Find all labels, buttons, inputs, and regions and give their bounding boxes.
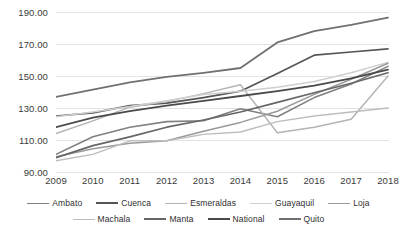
plot-area bbox=[56, 12, 389, 172]
legend-line-swatch bbox=[27, 203, 49, 204]
legend-item-quito[interactable]: Quito bbox=[279, 214, 325, 224]
x-axis-tick-label: 2016 bbox=[303, 175, 325, 186]
x-axis: 2009201020112012201320142015201620172018 bbox=[56, 175, 389, 191]
x-axis-tick-label: 2011 bbox=[119, 175, 140, 186]
legend-item-loja[interactable]: Loja bbox=[328, 198, 369, 208]
legend-label: National bbox=[233, 214, 265, 224]
legend-item-ambato[interactable]: Ambato bbox=[27, 198, 82, 208]
y-axis: 90.00110.00130.00150.00170.00190.00 bbox=[0, 12, 52, 172]
legend-label: Cuenca bbox=[121, 198, 151, 208]
gridline bbox=[56, 172, 389, 173]
x-axis-tick-label: 2012 bbox=[156, 175, 178, 186]
legend-item-national[interactable]: National bbox=[208, 214, 265, 224]
legend-item-guayaquil[interactable]: Guayaquil bbox=[250, 198, 314, 208]
y-axis-tick-label: 190.00 bbox=[18, 7, 48, 18]
legend-row: AmbatoCuencaEsmeraldasGuayaquilLoja bbox=[0, 195, 397, 211]
y-axis-tick-label: 170.00 bbox=[18, 39, 48, 50]
legend-item-manta[interactable]: Manta bbox=[144, 214, 193, 224]
legend-line-swatch bbox=[144, 218, 166, 220]
x-axis-tick-label: 2010 bbox=[82, 175, 104, 186]
legend-line-swatch bbox=[328, 203, 350, 204]
series-line-national bbox=[56, 70, 388, 128]
x-axis-tick-label: 2009 bbox=[45, 175, 67, 186]
legend-label: Quito bbox=[304, 214, 325, 224]
legend-item-machala[interactable]: Machala bbox=[73, 214, 131, 224]
legend-label: Esmeraldas bbox=[190, 198, 236, 208]
legend-item-cuenca[interactable]: Cuenca bbox=[96, 198, 151, 208]
legend-line-swatch bbox=[208, 218, 230, 220]
legend-line-swatch bbox=[73, 219, 95, 220]
y-axis-tick-label: 150.00 bbox=[18, 71, 48, 82]
series-lines bbox=[56, 12, 389, 172]
series-line-cuenca bbox=[56, 49, 388, 116]
x-axis-tick-label: 2014 bbox=[230, 175, 252, 186]
legend-line-swatch bbox=[250, 203, 272, 204]
legend-label: Guayaquil bbox=[275, 198, 314, 208]
x-axis-tick-label: 2013 bbox=[193, 175, 215, 186]
legend-line-swatch bbox=[165, 203, 187, 204]
y-axis-tick-label: 130.00 bbox=[18, 103, 48, 114]
legend-label: Manta bbox=[169, 214, 193, 224]
chart-legend: AmbatoCuencaEsmeraldasGuayaquilLojaMacha… bbox=[0, 195, 397, 227]
legend-line-swatch bbox=[279, 218, 301, 220]
legend-item-esmeraldas[interactable]: Esmeraldas bbox=[165, 198, 236, 208]
legend-label: Ambato bbox=[52, 198, 82, 208]
legend-row: MachalaMantaNationalQuito bbox=[0, 211, 397, 227]
legend-label: Machala bbox=[98, 214, 131, 224]
legend-label: Loja bbox=[353, 198, 369, 208]
y-axis-tick-label: 110.00 bbox=[19, 135, 48, 146]
x-axis-tick-label: 2017 bbox=[340, 175, 362, 186]
x-axis-tick-label: 2015 bbox=[267, 175, 289, 186]
legend-line-swatch bbox=[96, 202, 118, 204]
x-axis-tick-label: 2018 bbox=[377, 175, 399, 186]
